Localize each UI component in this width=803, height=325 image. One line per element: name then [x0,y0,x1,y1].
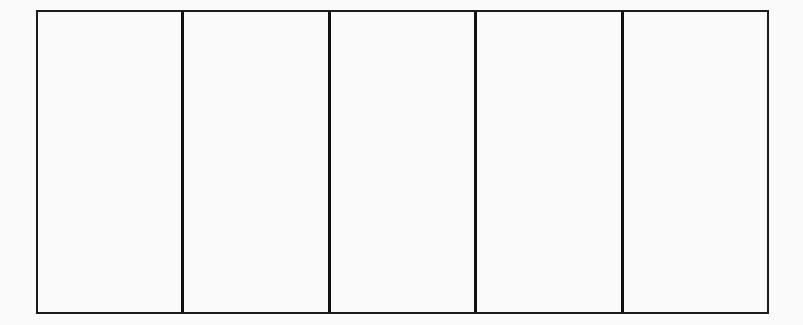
part-1 [38,12,181,312]
partitioned-rectangle [36,10,769,314]
part-4 [474,12,620,312]
part-5 [621,12,767,312]
part-3 [328,12,474,312]
part-2 [181,12,327,312]
